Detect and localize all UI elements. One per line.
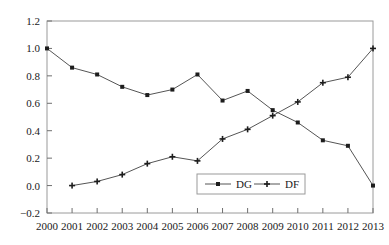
x-tick-label: 2005	[161, 220, 184, 232]
data-point-dg	[271, 108, 275, 112]
x-tick-label: 2011	[312, 220, 334, 232]
x-tick-label: 2010	[287, 220, 310, 232]
data-point-dg	[296, 120, 300, 124]
x-tick-label: 2003	[111, 220, 134, 232]
data-point-dg	[145, 93, 149, 97]
x-tick-label: 2012	[337, 220, 359, 232]
data-point-dg	[170, 88, 174, 92]
data-point-dg	[95, 72, 99, 76]
x-tick-label: 2002	[86, 220, 108, 232]
x-tick-label: 2009	[262, 220, 285, 232]
data-point-dg	[195, 72, 199, 76]
x-tick-label: 2008	[237, 220, 260, 232]
legend-label: DG	[236, 178, 252, 190]
y-tick-label: 0.8	[26, 70, 40, 82]
legend-marker-sample	[216, 182, 220, 186]
data-point-dg	[70, 66, 74, 70]
x-tick-label: 2001	[61, 220, 83, 232]
x-tick-label: 2007	[212, 220, 235, 232]
chart-background	[0, 0, 389, 245]
chart-legend: DGDF	[197, 174, 305, 194]
y-tick-label: 0.2	[26, 152, 40, 164]
y-tick-label: 0.0	[26, 180, 40, 192]
y-tick-label: 1.2	[26, 15, 40, 27]
y-tick-label: 1.0	[26, 42, 40, 54]
data-point-dg	[45, 46, 49, 50]
chart-canvas: −0.20.00.20.40.60.81.01.2 20002001200220…	[0, 0, 389, 245]
y-tick-label: 0.6	[26, 97, 40, 109]
x-tick-label: 2000	[36, 220, 59, 232]
y-tick-label: 0.4	[26, 125, 40, 137]
data-point-dg	[221, 99, 225, 103]
legend-label: DF	[285, 178, 299, 190]
y-tick-label: −0.2	[20, 207, 40, 219]
line-chart: −0.20.00.20.40.60.81.01.2 20002001200220…	[0, 0, 389, 245]
data-point-dg	[120, 85, 124, 89]
x-tick-label: 2013	[362, 220, 385, 232]
data-point-dg	[371, 184, 375, 188]
x-tick-label: 2006	[186, 220, 209, 232]
x-tick-label: 2004	[136, 220, 159, 232]
data-point-dg	[346, 144, 350, 148]
data-point-dg	[321, 138, 325, 142]
data-point-dg	[246, 89, 250, 93]
